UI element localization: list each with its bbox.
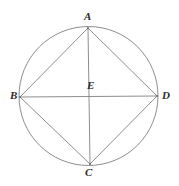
vertex-label-d: D bbox=[162, 90, 170, 101]
segment-bc bbox=[20, 97, 90, 164]
vertex-point-a bbox=[87, 27, 89, 29]
vertex-label-e: E bbox=[87, 80, 94, 91]
vertex-label-b: B bbox=[10, 90, 17, 101]
vertex-label-a: A bbox=[84, 11, 91, 22]
diagonal-ac bbox=[88, 28, 90, 164]
vertex-point-b bbox=[19, 96, 21, 98]
segment-ab bbox=[20, 28, 88, 97]
geometry-figure: A B C D E bbox=[0, 0, 179, 186]
geometry-canvas bbox=[0, 0, 179, 186]
vertex-label-c: C bbox=[85, 167, 92, 178]
vertex-point-c bbox=[89, 163, 91, 165]
vertex-point-d bbox=[156, 95, 158, 97]
diagonal-bd bbox=[20, 96, 157, 97]
segment-ad bbox=[88, 28, 157, 96]
segment-cd bbox=[90, 96, 157, 164]
